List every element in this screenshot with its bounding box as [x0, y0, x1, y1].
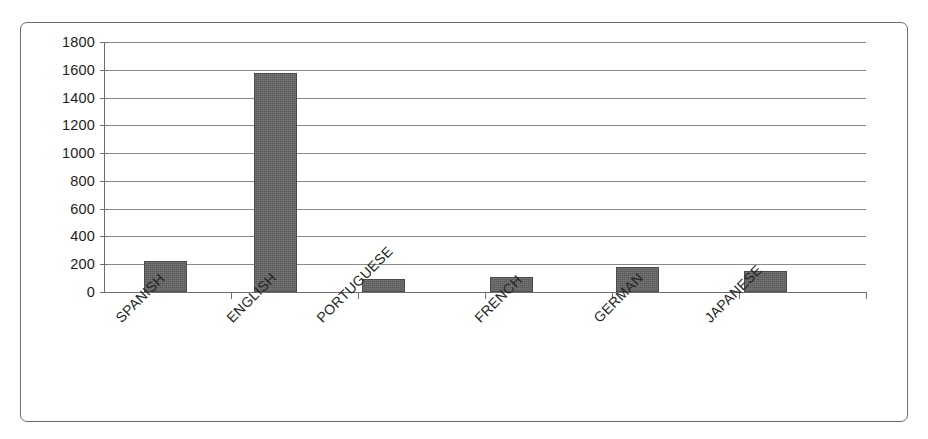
gridline-1000 [104, 153, 866, 154]
gridline-1800 [104, 42, 866, 43]
gridline-1600 [104, 70, 866, 71]
x-tick-6 [866, 292, 867, 299]
x-tick-2 [358, 292, 359, 299]
y-axis-label-200: 200 [70, 257, 95, 272]
y-axis-label-800: 800 [70, 174, 95, 189]
y-tick-0 [100, 292, 108, 293]
y-axis-label-1000: 1000 [62, 146, 95, 161]
gridline-800 [104, 181, 866, 182]
gridline-1400 [104, 98, 866, 99]
x-axis-labels: SPANISH ENGLISH PORTUGUESE FRENCH GERMAN… [104, 315, 866, 420]
gridline-400 [104, 236, 866, 237]
y-axis-label-0: 0 [87, 285, 95, 300]
y-axis-label-600: 600 [70, 201, 95, 216]
bar-english[interactable] [254, 73, 297, 292]
x-tick-1 [231, 292, 232, 299]
y-axis-label-400: 400 [70, 229, 95, 244]
y-axis-label-1600: 1600 [62, 63, 95, 78]
chart-frame: 1800 1600 1400 1200 1000 800 600 400 [20, 22, 908, 422]
y-axis-label-1800: 1800 [62, 35, 95, 50]
y-axis-label-1200: 1200 [62, 118, 95, 133]
y-axis-label-1400: 1400 [62, 90, 95, 105]
gridline-1200 [104, 125, 866, 126]
plot-area: 1800 1600 1400 1200 1000 800 600 400 [104, 42, 866, 292]
gridline-600 [104, 209, 866, 210]
chart-canvas: 1800 1600 1400 1200 1000 800 600 400 [0, 0, 928, 439]
y-axis-line [104, 42, 105, 292]
